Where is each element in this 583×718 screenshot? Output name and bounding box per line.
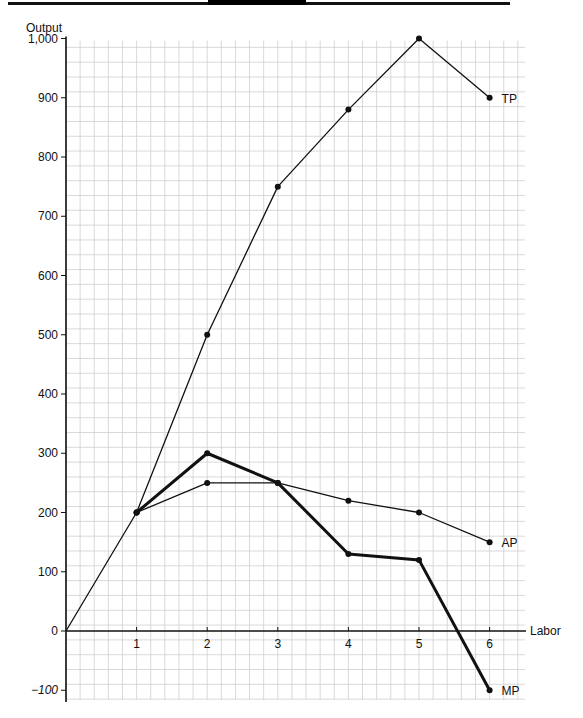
y-tick-label: 200 bbox=[38, 506, 58, 520]
grid bbox=[66, 41, 525, 701]
data-point bbox=[345, 498, 351, 504]
x-axis-title: Labor bbox=[530, 624, 561, 638]
y-tick-label: 700 bbox=[38, 209, 58, 223]
data-point bbox=[416, 557, 422, 563]
x-tick-label: 6 bbox=[486, 637, 493, 651]
data-point bbox=[275, 480, 281, 486]
series-label-ap: AP bbox=[502, 536, 518, 550]
data-point bbox=[487, 539, 493, 545]
series-ap: AP bbox=[134, 480, 518, 550]
x-tick-label: 3 bbox=[274, 637, 281, 651]
data-point bbox=[416, 36, 422, 42]
data-point bbox=[487, 687, 493, 693]
y-tick-label: 300 bbox=[38, 446, 58, 460]
y-tick-label: 100 bbox=[38, 565, 58, 579]
x-tick-label: 1 bbox=[133, 637, 140, 651]
x-tick-label: 4 bbox=[345, 637, 352, 651]
y-tick-label: 600 bbox=[38, 269, 58, 283]
y-tick-label: −100 bbox=[31, 683, 58, 697]
y-tick-label: 400 bbox=[38, 387, 58, 401]
y-tick-label: 0 bbox=[51, 624, 58, 638]
data-point bbox=[204, 450, 210, 456]
data-point bbox=[487, 95, 493, 101]
series-label-tp: TP bbox=[502, 92, 517, 106]
y-tick-label: 500 bbox=[38, 328, 58, 342]
series-label-mp: MP bbox=[502, 684, 520, 698]
data-point bbox=[345, 551, 351, 557]
data-point bbox=[345, 107, 351, 113]
y-axis-title: Output bbox=[26, 21, 63, 35]
y-tick-label: 900 bbox=[38, 91, 58, 105]
x-tick-label: 5 bbox=[416, 637, 423, 651]
data-point bbox=[134, 510, 140, 516]
y-tick-label: 800 bbox=[38, 150, 58, 164]
series-lines: TPAPMP bbox=[66, 36, 520, 699]
series-tp: TP bbox=[66, 36, 517, 632]
x-tick-label: 2 bbox=[204, 637, 211, 651]
header-rule bbox=[8, 0, 510, 5]
data-point bbox=[275, 184, 281, 190]
production-chart: −10001002003004005006007008009001,000 12… bbox=[0, 0, 583, 718]
data-point bbox=[204, 332, 210, 338]
data-point bbox=[204, 480, 210, 486]
data-point bbox=[416, 510, 422, 516]
y-axis-ticks: −10001002003004005006007008009001,000 bbox=[28, 32, 66, 698]
